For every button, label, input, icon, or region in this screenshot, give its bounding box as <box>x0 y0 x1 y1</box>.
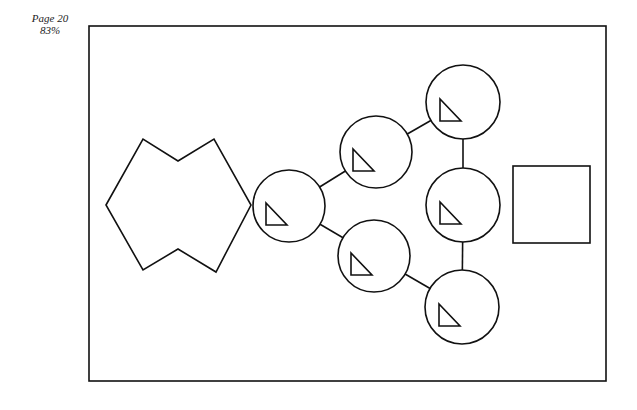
circle-nodes <box>253 65 500 344</box>
circle-node <box>426 168 500 242</box>
node-circle <box>426 65 500 139</box>
circle-node <box>338 220 410 292</box>
circle-node <box>340 116 412 188</box>
diagram-canvas <box>0 0 637 410</box>
circle-node <box>426 65 500 139</box>
six-point-star-shape <box>106 139 251 272</box>
node-circle <box>253 170 325 242</box>
node-circle <box>338 220 410 292</box>
node-circle <box>426 168 500 242</box>
circle-node <box>253 170 325 242</box>
node-circle <box>425 270 499 344</box>
square-shape <box>513 166 590 243</box>
node-circle <box>340 116 412 188</box>
circle-node <box>425 270 499 344</box>
